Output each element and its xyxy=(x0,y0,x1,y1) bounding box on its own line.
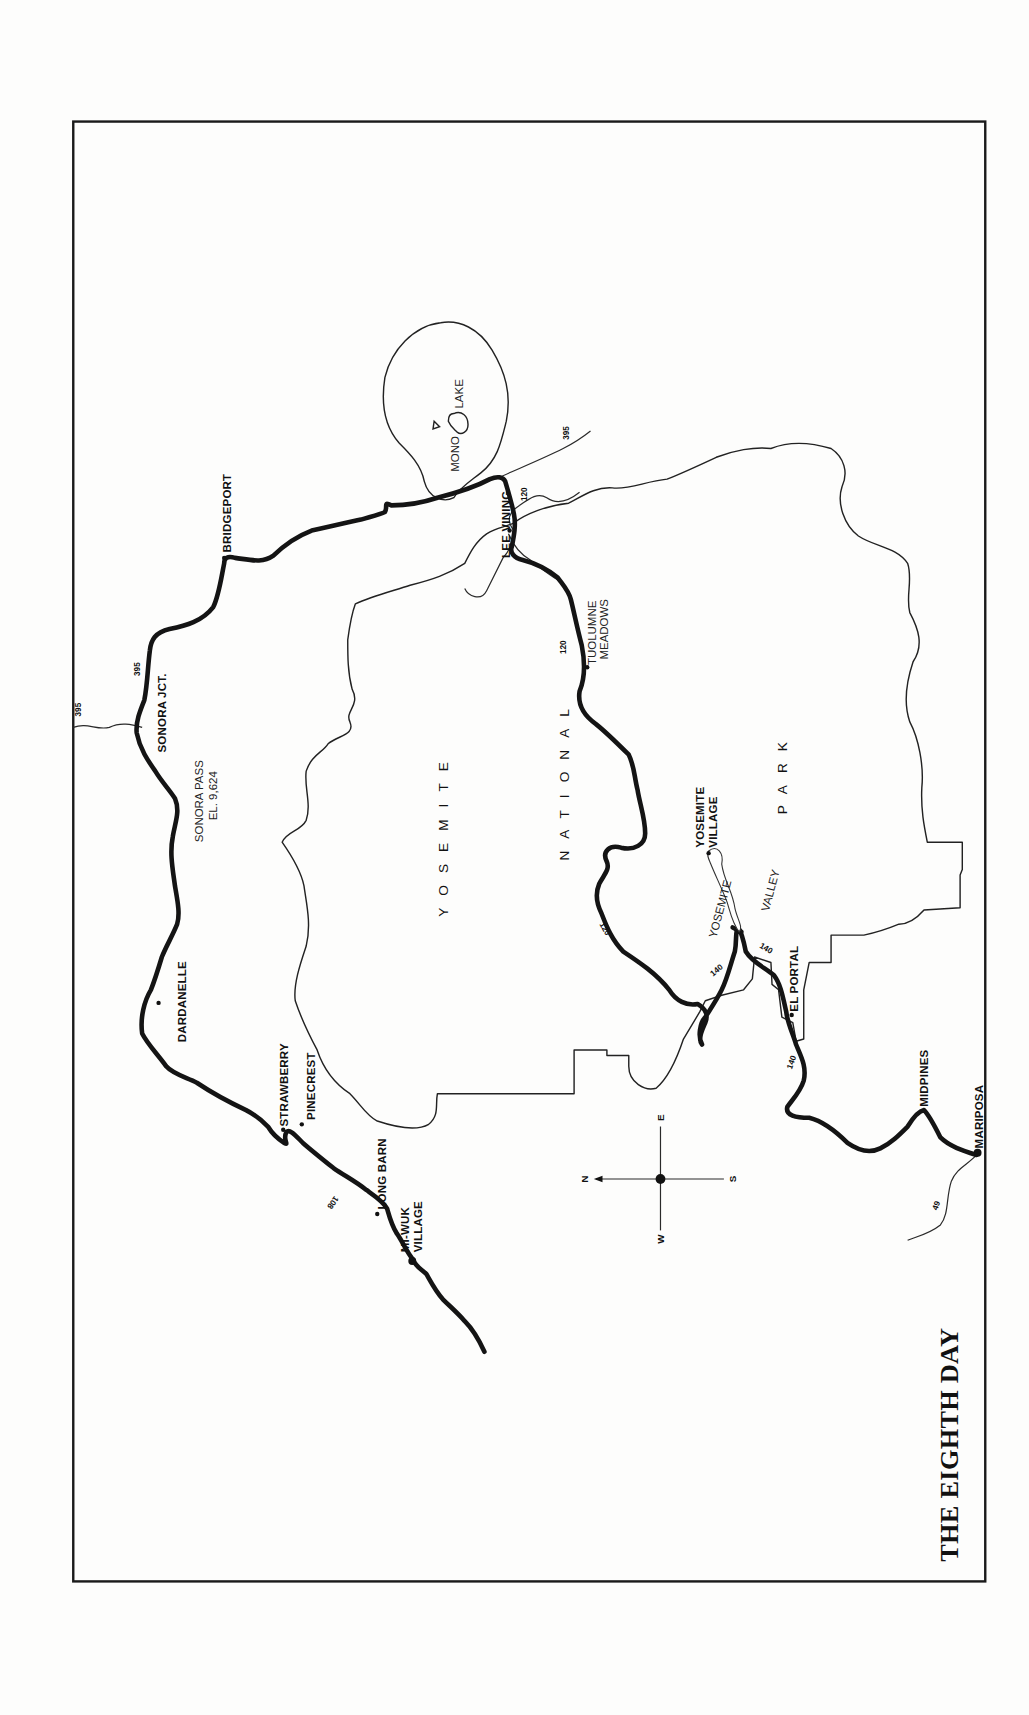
label-midpines: MIDPINES xyxy=(918,1050,930,1107)
north-arrow-icon xyxy=(594,1176,603,1183)
label-national: NATIONAL xyxy=(557,697,572,861)
marker-dardanelle xyxy=(156,1001,160,1005)
label-lake: LAKE xyxy=(453,379,465,409)
label-bridgeport: BRIDGEPORT xyxy=(221,474,233,553)
compass-e: E xyxy=(655,1114,666,1121)
marker-el-portal xyxy=(790,1013,794,1017)
label-miwuk: MI-WUK xyxy=(399,1207,411,1253)
marker-strawberry xyxy=(281,1128,285,1132)
label-dardanelle: DARDANELLE xyxy=(176,961,188,1042)
marker-long-barn xyxy=(375,1212,379,1216)
paoha-island xyxy=(448,413,468,434)
hwy-395-north-spur xyxy=(73,724,142,728)
compass-n: N xyxy=(580,1175,591,1182)
label-sonora-pass: SONORA PASS xyxy=(193,760,205,842)
label-park: PARK xyxy=(775,730,790,814)
hwy-49-road xyxy=(908,1155,977,1240)
hwy-395-route-label: 395 xyxy=(133,662,142,676)
hwy-108-label: 108 xyxy=(325,1194,340,1211)
label-mono: MONO xyxy=(449,436,461,472)
marker-bridgeport xyxy=(222,556,226,560)
compass-rose: N S E W xyxy=(580,1114,738,1244)
hwy-120-tuolumne-label: 120 xyxy=(559,640,568,654)
marker-tuolumne xyxy=(585,665,589,669)
marker-mariposa xyxy=(974,1149,982,1157)
mono-lake-outline xyxy=(383,322,508,500)
marker-miwuk xyxy=(408,1257,416,1265)
label-sonora-pass-elev: EL. 9,624 xyxy=(207,771,219,821)
label-long-barn: LONG BARN xyxy=(376,1138,388,1209)
hwy-140-south-label: 140 xyxy=(785,1054,798,1070)
hwy-120-lee-label: 120 xyxy=(520,487,529,501)
negit-island xyxy=(433,421,440,429)
route-map: N S E W YOSEMITE NATIONAL PARK MONO LAKE… xyxy=(0,0,1029,1715)
marker-yosemite-village xyxy=(706,851,710,855)
hwy-140-valley-label: 140 xyxy=(708,962,725,978)
hwy-395-south-spur xyxy=(498,431,591,478)
label-meadows: MEADOWS xyxy=(598,599,610,660)
label-tuolumne: TUOLUMNE xyxy=(586,600,598,665)
compass-w: W xyxy=(655,1234,666,1244)
label-village: VILLAGE xyxy=(707,796,719,847)
label-yosemite-valley-2: VALLEY xyxy=(759,868,782,912)
label-yosemite-village: YOSEMITE xyxy=(694,787,706,848)
hwy-49-label: 49 xyxy=(931,1199,943,1211)
park-boundary xyxy=(282,444,962,1128)
label-yosemite-park: YOSEMITE xyxy=(436,750,451,917)
compass-s: S xyxy=(727,1175,738,1182)
hwy-395-south-label: 395 xyxy=(562,426,571,440)
hwy-395-north-label: 395 xyxy=(74,702,83,716)
label-mariposa: MARIPOSA xyxy=(973,1085,985,1149)
label-miwuk-village: VILLAGE xyxy=(412,1201,424,1252)
map-title: THE EIGHTH DAY xyxy=(935,1328,964,1562)
label-pinecrest: PINECREST xyxy=(305,1052,317,1120)
map-frame xyxy=(73,122,985,1582)
label-strawberry: STRAWBERRY xyxy=(278,1043,290,1126)
label-el-portal: EL PORTAL xyxy=(788,946,800,1012)
marker-pinecrest xyxy=(300,1122,304,1126)
label-lee-vining: LEE VINING xyxy=(500,491,512,558)
hwy-140-elportal-label: 140 xyxy=(758,941,775,956)
label-sonora-jct: SONORA JCT. xyxy=(156,673,168,752)
route-line xyxy=(137,477,977,1352)
